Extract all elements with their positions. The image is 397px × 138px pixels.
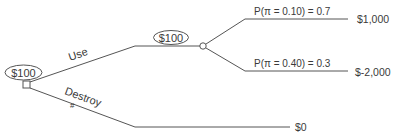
- root-node: $100: [5, 65, 42, 88]
- use-branch-label: Use: [67, 45, 89, 63]
- use-branch-line: [30, 46, 200, 82]
- outcome-low-payoff: $-2,000: [355, 66, 391, 78]
- decision-node-square: [23, 81, 30, 88]
- chance-value-label: $100: [159, 32, 183, 44]
- use-branch: Use $100 P(π = 0.10) = 0.7 $1,000 P(π = …: [30, 6, 391, 82]
- outcome-low-probability: P(π = 0.40) = 0.3: [254, 58, 331, 69]
- chance-node-circle: [200, 43, 206, 49]
- destroy-payoff: $0: [295, 121, 307, 133]
- root-value-label: $100: [11, 67, 35, 79]
- outcome-high-line: [206, 19, 348, 44]
- destroy-branch: Destroy # $0: [30, 85, 307, 133]
- outcome-high-probability: P(π = 0.10) = 0.7: [254, 6, 331, 17]
- outcome-high-payoff: $1,000: [357, 13, 389, 25]
- decision-tree-diagram: $100 Use $100 P(π = 0.10) = 0.7 $1,000 P…: [0, 0, 397, 138]
- prune-mark-icon: #: [70, 101, 75, 110]
